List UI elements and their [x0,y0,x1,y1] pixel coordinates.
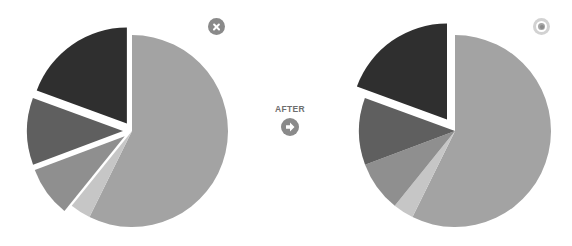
target-dot [540,25,544,29]
pie-chart-after [323,0,572,246]
arrow-right-icon[interactable] [281,118,299,136]
pie-chart-before [0,0,260,246]
transition-indicator: AFTER [272,104,308,136]
pie-before-svg [0,0,260,246]
after-label: AFTER [272,104,308,114]
pie-after-svg [323,0,572,246]
target-icon[interactable] [533,18,550,35]
close-icon[interactable] [208,18,225,35]
